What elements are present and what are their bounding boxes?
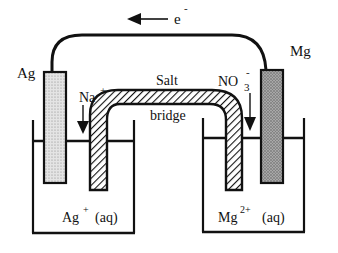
- svg-text:(aq): (aq): [262, 210, 285, 226]
- external-wire: [52, 35, 266, 72]
- cation-label: Na: [79, 90, 96, 105]
- electron-flow-arrow: [127, 13, 168, 25]
- anion-label: NO: [218, 74, 238, 89]
- galvanic-cell-diagram: e - Ag Mg Salt bridge Na + NO 3 -: [0, 0, 338, 253]
- anion-charge: -: [246, 66, 250, 78]
- right-solution-label: Mg 2+ (aq): [218, 204, 285, 226]
- salt-bridge-label-line2: bridge: [150, 108, 186, 123]
- svg-text:(aq): (aq): [95, 210, 118, 226]
- cation-charge: +: [100, 84, 106, 96]
- silver-electrode-label: Ag: [17, 65, 36, 81]
- svg-text:Ag: Ag: [62, 210, 79, 225]
- anion-subscript: 3: [244, 81, 250, 93]
- svg-text:Mg: Mg: [218, 210, 237, 225]
- silver-electrode: [44, 72, 66, 183]
- svg-text:+: +: [83, 204, 89, 215]
- salt-bridge-label-line1: Salt: [156, 73, 178, 88]
- anion-flow-arrow: [244, 93, 256, 131]
- magnesium-electrode-label: Mg: [290, 43, 311, 59]
- left-solution-label: Ag + (aq): [62, 204, 118, 226]
- magnesium-electrode: [261, 70, 283, 183]
- electron-label: e: [174, 11, 181, 27]
- electron-charge: -: [184, 2, 188, 14]
- cation-flow-arrow: [77, 105, 89, 134]
- svg-text:2+: 2+: [240, 204, 251, 215]
